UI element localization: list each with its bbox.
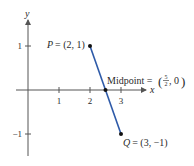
y-tick-label-neg1: −1 xyxy=(12,129,22,139)
q-label: Q= (3, −1) xyxy=(123,137,168,149)
p-label: P= (2, 1) xyxy=(46,39,85,51)
x-tick-label-2: 2 xyxy=(88,96,93,106)
y-tick-label-1: 1 xyxy=(18,41,23,51)
midpoint-tail: , 0 xyxy=(169,75,179,86)
x-tick-label-3: 3 xyxy=(119,96,124,106)
midpoint-frac-num: 5 xyxy=(165,74,168,80)
midpoint-label: Midpoint = xyxy=(107,75,153,86)
x-tick-label-1: 1 xyxy=(57,96,62,106)
point-midpoint xyxy=(104,88,108,92)
midpoint-paren-close: ) xyxy=(181,74,185,89)
point-p xyxy=(88,44,92,48)
point-q xyxy=(119,132,123,136)
coordinate-plot: 1 2 3 1 −1 x y P= (2, 1) Midpoint = ( 5 … xyxy=(0,0,194,166)
midpoint-paren-open: ( xyxy=(158,74,162,89)
midpoint-frac-den: 2 xyxy=(165,81,168,87)
y-axis-label: y xyxy=(24,8,30,19)
